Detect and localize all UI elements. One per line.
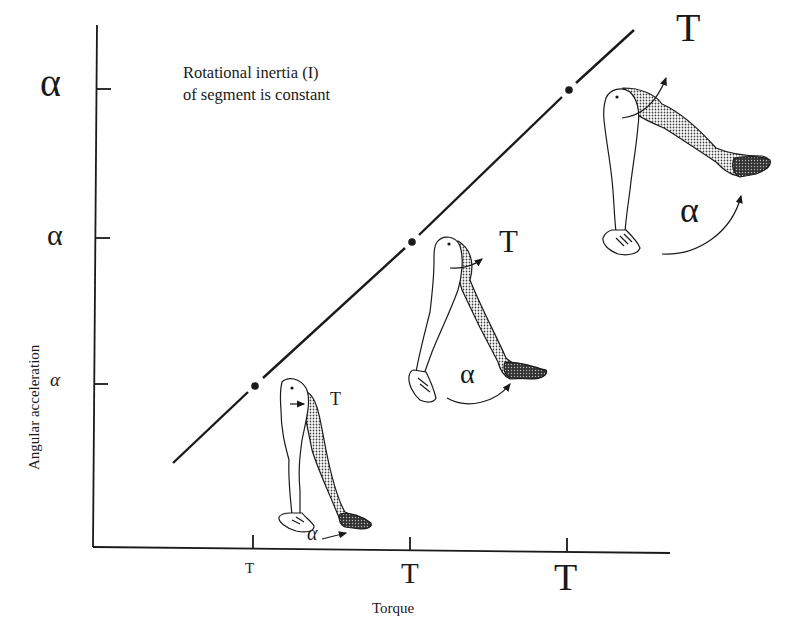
x-axis-label: Torque: [372, 601, 414, 616]
leg-large-torque-label: T: [676, 8, 700, 48]
leg-medium-torque-label: T: [499, 226, 518, 257]
torque-vs-angular-acceleration-diagram: Rotational inertia (I) of segment is con…: [0, 0, 796, 641]
axes: [93, 25, 670, 553]
x-tick-label-small-torque: T: [245, 561, 254, 576]
leg-illustration-small: [279, 379, 371, 539]
y-tick-label-large-alpha: α: [40, 63, 61, 103]
constant-inertia-annotation: Rotational inertia (I) of segment is con…: [183, 62, 330, 106]
leg-small-alpha-label: α: [307, 523, 318, 543]
diagram-canvas: [0, 0, 796, 641]
y-tick-label-medium-alpha: α: [47, 220, 63, 250]
y-tick-label-small-alpha: α: [50, 370, 60, 389]
leg-medium-alpha-label: α: [460, 360, 475, 388]
annotation-line-2: of segment is constant: [183, 84, 330, 106]
x-axis: [93, 547, 670, 553]
data-point-1: [251, 382, 259, 390]
leg-small-torque-label: T: [330, 390, 341, 408]
y-axis-label: Angular acceleration: [27, 345, 42, 470]
leg-large-alpha-label: α: [680, 192, 699, 228]
x-tick-label-medium-torque: T: [401, 559, 419, 588]
leg-illustration-medium: [409, 237, 547, 404]
x-tick-label-large-torque: T: [554, 558, 577, 596]
data-point-3: [565, 86, 573, 94]
annotation-line-1: Rotational inertia (I): [183, 62, 330, 84]
y-axis: [93, 25, 97, 547]
data-point-2: [408, 238, 416, 246]
